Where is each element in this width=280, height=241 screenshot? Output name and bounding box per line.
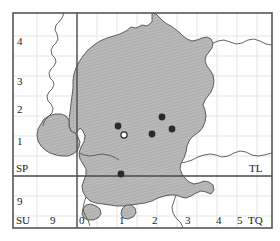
x-tick-label-0: 0 — [79, 214, 85, 226]
map-svg: 4 3 2 1 SP TL SU TQ 9 9 0 1 2 3 4 5 — [0, 0, 280, 241]
x-tick-label-5: 5 — [237, 214, 243, 226]
x-tick-label-2: 2 — [152, 214, 158, 226]
y-tick-label-4: 4 — [17, 35, 23, 47]
grid-square-label-sp: SP — [16, 162, 28, 174]
y-minor-label-9: 9 — [17, 195, 23, 207]
grid-square-label-tl: TL — [249, 162, 263, 174]
grid-square-label-su: SU — [16, 214, 30, 226]
record-point — [169, 126, 176, 133]
y-tick-label-1: 1 — [17, 135, 23, 147]
grid-square-label-tq: TQ — [248, 214, 263, 226]
x-tick-label-4: 4 — [216, 214, 222, 226]
y-tick-label-2: 2 — [17, 103, 23, 115]
record-point — [115, 123, 122, 130]
record-point-open — [121, 132, 127, 138]
x-tick-label-1: 1 — [119, 214, 125, 226]
record-point — [149, 131, 156, 138]
distribution-map-figure: 4 3 2 1 SP TL SU TQ 9 9 0 1 2 3 4 5 — [0, 0, 280, 241]
y-tick-label-3: 3 — [17, 75, 23, 87]
x-tick-label-3: 3 — [185, 214, 191, 226]
record-point — [118, 171, 125, 178]
x-minor-label-9: 9 — [50, 214, 56, 226]
record-point — [159, 114, 166, 121]
